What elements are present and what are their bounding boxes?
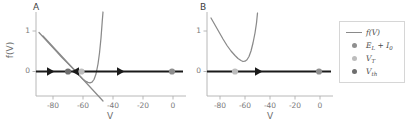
legend-label-vt: VT xyxy=(366,54,375,63)
panel-a-xtick-label-3: -20 xyxy=(127,101,159,110)
figure-root: A xyxy=(0,0,411,130)
legend: f(V) EL + I0 VT Vth xyxy=(339,21,405,83)
panel-a-ytick-label-0: 0 xyxy=(14,66,30,75)
panel-a-xtick-label-2: -40 xyxy=(97,101,129,110)
legend-line-icon xyxy=(345,32,363,34)
panel-b-label: B xyxy=(200,2,206,12)
panel-a-ytick-label-1: 1 xyxy=(14,26,30,35)
legend-dot-icon-vth xyxy=(345,69,363,74)
panel-a-xtick-label-0: -80 xyxy=(37,101,69,110)
panel-a-arrow-right-1 xyxy=(47,67,55,76)
panel-a-leak-line xyxy=(43,36,103,101)
legend-item-fv: f(V) xyxy=(345,26,400,39)
panel-a: A xyxy=(0,0,196,130)
panel-a-marker-el-i0 xyxy=(169,68,175,74)
panel-a-xlabel: V xyxy=(94,111,126,121)
panel-b-marker-vt xyxy=(232,68,238,74)
panel-a-xtick-label-1: -60 xyxy=(67,101,99,110)
panel-b: B 0 1 - xyxy=(185,0,335,130)
panel-a-marker-vt xyxy=(78,68,84,74)
panel-b-ytick-label-1: 1 xyxy=(185,26,201,35)
panel-a-label: A xyxy=(33,2,39,12)
panel-b-ytick-label-0: 0 xyxy=(185,66,201,75)
panel-b-fv-curve xyxy=(211,13,258,62)
panel-b-xtick-label-4: 0 xyxy=(304,101,336,110)
panel-a-ylabel: f(V) xyxy=(5,31,15,69)
legend-label-fv: f(V) xyxy=(366,28,380,37)
legend-label-el-i0: EL + I0 xyxy=(366,41,393,50)
legend-item-vt: VT xyxy=(345,52,400,65)
legend-dot-icon-el-i0 xyxy=(345,43,363,48)
panel-b-xlabel: V xyxy=(254,111,286,121)
legend-dot-icon-vt xyxy=(345,56,363,61)
legend-item-vth: Vth xyxy=(345,65,400,78)
panel-b-arrow-right-1 xyxy=(255,67,263,76)
panel-b-marker-el-i0 xyxy=(316,68,322,74)
panel-a-arrow-right-2 xyxy=(117,67,125,76)
legend-item-el-i0: EL + I0 xyxy=(345,39,400,52)
legend-label-vth: Vth xyxy=(366,67,377,76)
panel-a-marker-vth xyxy=(65,68,71,74)
